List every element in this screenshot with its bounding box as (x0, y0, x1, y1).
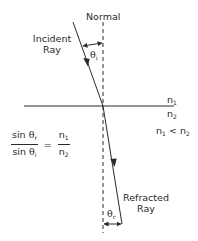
n1-label: n1 (167, 94, 177, 106)
theta-r-subscript: r (34, 134, 36, 141)
index-ratio-denominator: n2 (58, 146, 70, 160)
index-ratio-fraction: n1 n2 (58, 129, 70, 160)
refracted-ray-arrowhead (110, 158, 116, 167)
fraction-bar (58, 144, 70, 145)
ineq-n1-subscript: 1 (162, 130, 166, 137)
refractive-index-inequality: n1 < n2 (156, 125, 190, 137)
sine-ratio-numerator: sin θr (11, 129, 38, 143)
theta-i-subscript: i (35, 151, 37, 158)
normal-label-text: Normal (86, 11, 120, 22)
ineq-less-than: < (169, 125, 177, 136)
refracted-ray-label: Refracted Ray (122, 192, 170, 214)
theta-refracted-label: θr (107, 208, 116, 220)
refracted-ray-label-line2: Ray (122, 203, 170, 214)
n1-subscript: 1 (65, 134, 69, 141)
n2-label: n2 (167, 108, 177, 120)
sin-text: sin (12, 129, 29, 140)
refraction-diagram: Normal Incident Ray θi n1 n2 n1 < n2 sin… (0, 0, 198, 241)
index-ratio-numerator: n1 (58, 129, 70, 143)
theta-incident-arc-arrow (83, 43, 102, 46)
theta-refracted-subscript: r (113, 213, 116, 220)
snells-law-formula: sin θr sin θi = n1 n2 (11, 129, 70, 160)
refracted-ray-label-line1: Refracted (122, 192, 170, 203)
refracted-ray-line (103, 106, 122, 224)
incident-ray-label-line2: Ray (31, 44, 73, 55)
n1-subscript: 1 (173, 99, 177, 106)
n2-subscript: 2 (65, 151, 69, 158)
sine-ratio-denominator: sin θi (11, 146, 37, 160)
theta-incident-subscript: i (96, 54, 98, 61)
ineq-n2-subscript: 2 (186, 130, 190, 137)
sine-ratio-fraction: sin θr sin θi (11, 129, 38, 160)
theta-incident-label: θi (90, 49, 98, 61)
incident-ray-label: Incident Ray (31, 33, 73, 55)
equals-sign: = (44, 139, 52, 150)
incident-ray-label-line1: Incident (31, 33, 73, 44)
sin-text: sin (12, 146, 29, 157)
fraction-bar (11, 144, 38, 145)
normal-label: Normal (86, 11, 120, 22)
n2-subscript: 2 (173, 113, 177, 120)
